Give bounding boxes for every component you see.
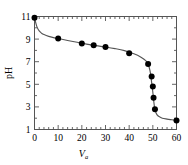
data-point-marker [150,84,156,90]
data-curve [35,18,177,121]
x-axis-ticks [35,17,177,130]
fitted-curve-path [35,18,177,121]
x-tick-label: 30 [101,133,111,143]
plot-frame [35,17,177,130]
x-tick-label: 40 [124,133,134,143]
x-tick-label: 20 [77,133,87,143]
x-axis-title-subscript: a [85,153,88,160]
y-tick-label: 1 [26,125,31,135]
y-tick-label: 9 [26,35,31,45]
data-point-marker [152,106,158,112]
data-point-marker [126,50,132,56]
y-axis-ticks [35,17,177,130]
x-axis-tick-labels: 0102030405060 [32,133,181,143]
x-tick-label: 50 [148,133,158,143]
data-point-marker [55,36,61,42]
x-tick-label: 0 [32,133,37,143]
data-point-marker [103,44,109,50]
x-axis-title: Va [79,148,88,160]
y-tick-label: 7 [26,57,31,67]
y-tick-label: 5 [26,80,31,90]
titration-curve-figure: 0102030405060 1357911 VapH [0,0,188,165]
data-point-marker [149,73,155,79]
y-tick-label: 3 [26,102,31,112]
axis-titles: VapH [3,67,88,160]
y-tick-label: 11 [21,12,30,22]
data-point-marker [32,15,38,21]
data-point-marker [145,61,151,67]
data-points [32,15,180,124]
data-point-marker [79,41,85,47]
chart-canvas: 0102030405060 1357911 VapH [0,0,188,165]
x-tick-label: 60 [172,133,182,143]
data-point-marker [174,117,180,123]
y-axis-title: pH [3,67,14,79]
data-point-marker [91,42,97,48]
y-axis-tick-labels: 1357911 [21,12,30,135]
x-tick-label: 10 [53,133,63,143]
data-point-marker [151,95,157,101]
